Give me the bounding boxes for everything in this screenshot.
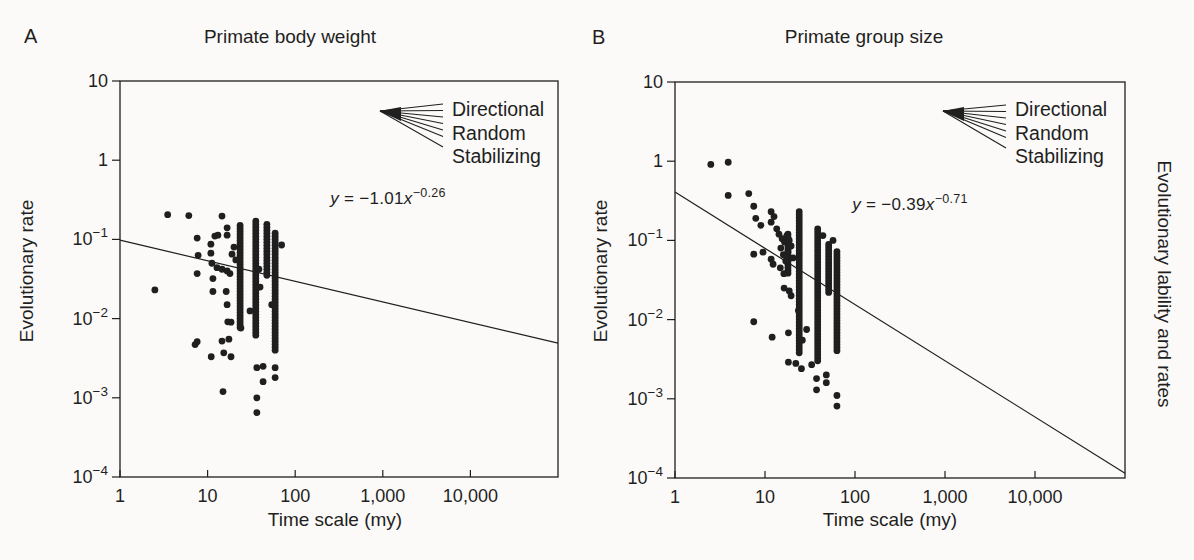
- column-point: [252, 332, 259, 339]
- y-tick-label: 10−4: [73, 463, 109, 487]
- x-tick-label: 10,000: [1007, 487, 1062, 507]
- data-point: [725, 192, 732, 199]
- data-point: [792, 360, 799, 367]
- data-point: [785, 248, 792, 255]
- fan-wedge: [380, 107, 401, 121]
- x-tick-label: 10: [198, 486, 218, 506]
- data-point: [220, 388, 227, 395]
- data-point: [227, 270, 234, 277]
- data-point: [782, 258, 789, 265]
- y-tick-label: 1: [98, 150, 108, 170]
- x-tick-label: 100: [280, 486, 310, 506]
- data-point: [760, 249, 767, 256]
- data-point: [777, 264, 784, 271]
- column-point: [796, 349, 803, 356]
- data-point: [803, 326, 810, 333]
- data-point: [813, 386, 820, 393]
- figure-root: 10110−110−210−310−41101001,00010,0001011…: [0, 0, 1194, 560]
- data-point: [260, 378, 267, 385]
- y-tick-label: 1: [653, 151, 663, 171]
- x-tick-label: 100: [840, 487, 870, 507]
- fit-line: [120, 240, 558, 343]
- data-point: [750, 318, 757, 325]
- data-point: [785, 329, 792, 336]
- equation-coefficient: = −1.01: [339, 189, 404, 208]
- data-point: [725, 159, 732, 166]
- x-tick-label: 1,000: [360, 486, 405, 506]
- data-point: [808, 361, 815, 368]
- data-point: [260, 363, 267, 370]
- data-point: [253, 409, 260, 416]
- data-point: [255, 266, 262, 273]
- equation-exponent: −0.71: [935, 192, 968, 206]
- fit-equation-a: y = −1.01x−0.26: [278, 186, 498, 209]
- y-tick-label: 10−2: [628, 306, 663, 330]
- data-point: [192, 341, 199, 348]
- data-point: [228, 353, 235, 360]
- data-point: [780, 270, 787, 277]
- column-point: [825, 289, 832, 296]
- data-point: [257, 284, 264, 291]
- y-tick-label: 10−4: [628, 464, 664, 488]
- data-point: [707, 161, 714, 168]
- fan-label-stabilizing: Stabilizing: [452, 145, 544, 169]
- y-tick-label: 10−1: [73, 225, 108, 249]
- data-point: [770, 261, 777, 268]
- data-point: [223, 288, 230, 295]
- data-point: [195, 252, 202, 259]
- data-point: [253, 394, 260, 401]
- fit-line: [675, 192, 1125, 473]
- data-point: [799, 337, 806, 344]
- data-point: [210, 288, 217, 295]
- data-point: [219, 338, 226, 345]
- data-point: [834, 392, 841, 399]
- fan-label-random: Random: [1015, 122, 1107, 146]
- data-point: [219, 213, 226, 220]
- data-point: [795, 307, 802, 314]
- y-tick-label: 10: [88, 71, 108, 91]
- data-point: [207, 241, 214, 248]
- data-point: [820, 232, 827, 239]
- data-point: [813, 375, 820, 382]
- equation-lhs: y: [330, 189, 339, 208]
- data-point: [752, 215, 759, 222]
- data-point: [208, 353, 215, 360]
- data-point: [790, 255, 797, 262]
- equation-coefficient: = −0.39: [861, 195, 926, 214]
- column-point: [263, 272, 270, 279]
- data-point: [224, 301, 231, 308]
- data-point: [788, 292, 795, 299]
- fan-label-directional: Directional: [1015, 98, 1107, 122]
- data-point: [207, 250, 214, 257]
- data-point: [194, 270, 201, 277]
- fan-legend-a: Directional Random Stabilizing: [452, 98, 544, 169]
- data-point: [238, 325, 245, 332]
- data-point: [231, 244, 238, 251]
- y-tick-label: 10−3: [73, 384, 108, 408]
- data-point: [151, 287, 158, 294]
- data-point: [224, 232, 231, 239]
- data-point: [194, 235, 201, 242]
- column-point: [814, 357, 821, 364]
- data-point: [210, 275, 217, 282]
- data-point: [253, 364, 260, 371]
- data-point: [247, 308, 254, 315]
- fit-equation-b: y = −0.39x−0.71: [800, 192, 1020, 215]
- fan-label-stabilizing: Stabilizing: [1015, 145, 1107, 169]
- equation-lhs: y: [852, 195, 861, 214]
- data-point: [768, 219, 775, 226]
- y-tick-label: 10: [643, 72, 663, 92]
- y-tick-label: 10−1: [628, 226, 663, 250]
- data-point: [834, 403, 841, 410]
- data-point: [164, 211, 171, 218]
- data-point: [769, 334, 776, 341]
- equation-variable: x: [926, 195, 935, 214]
- right-margin-label: Evolutionary lability and rates: [1153, 84, 1175, 484]
- x-axis-label-b: Time scale (my): [740, 509, 1040, 531]
- fan-label-random: Random: [452, 122, 544, 146]
- data-point: [268, 301, 275, 308]
- column-point: [834, 347, 841, 354]
- data-point: [232, 257, 239, 264]
- x-tick-label: 10,000: [443, 486, 498, 506]
- y-axis-label-b: Evolutionary rate: [590, 71, 612, 471]
